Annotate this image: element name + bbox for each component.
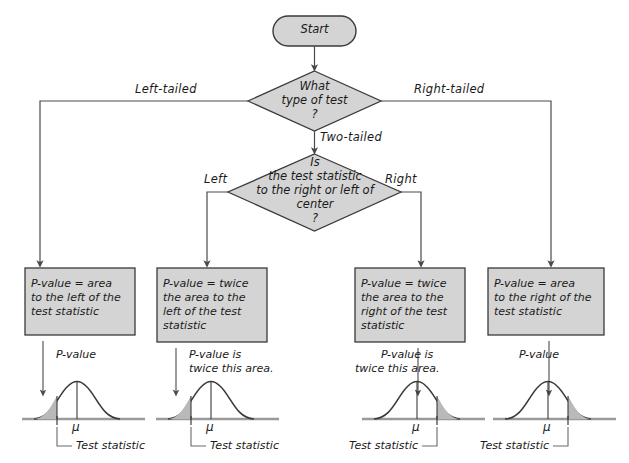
result-box-2-line-2: the area to the bbox=[163, 291, 265, 306]
decision-statistic-side-line-1: Is bbox=[229, 156, 401, 170]
curve-2-annotation-line-1: P-value is bbox=[189, 348, 241, 362]
flowchart-canvas: Start What type of test ? Left-tailed Ri… bbox=[0, 0, 629, 463]
curve-2-annotation-line-2: twice this area. bbox=[189, 362, 274, 376]
result-box-3-line-1: P-value = twice bbox=[361, 277, 463, 292]
connector-two-tailed-right bbox=[401, 192, 421, 264]
edge-label-left-tailed: Left-tailed bbox=[135, 82, 197, 96]
edge-label-two-tailed: Two-tailed bbox=[320, 130, 382, 144]
decision-statistic-side-line-3: to the right or left of bbox=[224, 184, 406, 198]
statistic-leader-2 bbox=[191, 427, 206, 446]
curve-1-center-label: μ bbox=[72, 420, 80, 434]
edge-label-right: Right bbox=[385, 172, 417, 186]
result-box-2-line-4: statistic bbox=[163, 319, 265, 334]
edge-label-left: Left bbox=[204, 172, 227, 186]
result-box-3-line-2: the area to the bbox=[361, 291, 463, 306]
curve-3-statistic-label: Test statistic bbox=[343, 439, 418, 453]
normal-curve-2 bbox=[156, 381, 279, 446]
result-box-4-line-3: test statistic bbox=[494, 305, 600, 320]
statistic-leader-4 bbox=[553, 427, 568, 446]
decision-test-type-line-2: type of test bbox=[253, 94, 376, 108]
normal-curve-4 bbox=[493, 381, 616, 446]
curve-4-center-label: μ bbox=[543, 420, 551, 434]
curve-1-statistic-label: Test statistic bbox=[76, 439, 145, 453]
curve-3-annotation-line-2: twice this area. bbox=[355, 362, 440, 376]
curve-4-statistic-label: Test statistic bbox=[474, 439, 549, 453]
result-box-4-line-2: to the right of the bbox=[494, 291, 602, 306]
curve-2-statistic-label: Test statistic bbox=[210, 439, 279, 453]
decision-statistic-side-line-5: ? bbox=[229, 212, 401, 226]
statistic-leader-3 bbox=[422, 427, 437, 446]
result-box-4-line-1: P-value = area bbox=[494, 277, 600, 292]
result-box-2-line-3: left of the test bbox=[163, 305, 265, 320]
result-box-3-line-3: right of the test bbox=[361, 305, 463, 320]
curve-3-center-label: μ bbox=[412, 420, 420, 434]
start-node-label: Start bbox=[273, 23, 356, 37]
curve-4-annotation-line-1: P-value bbox=[519, 348, 559, 362]
curve-3-annotation-line-1: P-value is bbox=[381, 348, 433, 362]
connector-two-tailed-left bbox=[207, 192, 228, 264]
edge-label-right-tailed: Right-tailed bbox=[414, 82, 484, 96]
result-box-1-line-3: test statistic bbox=[31, 305, 131, 320]
result-box-1-line-2: to the left of the bbox=[31, 291, 135, 306]
normal-curve-3 bbox=[362, 381, 485, 446]
decision-statistic-side-line-4: center bbox=[229, 198, 401, 212]
normal-curve-1 bbox=[22, 381, 145, 446]
result-box-2-line-1: P-value = twice bbox=[163, 277, 265, 292]
decision-statistic-side-line-2: the test statistic bbox=[229, 170, 401, 184]
decision-test-type-line-1: What bbox=[253, 80, 376, 94]
decision-test-type-line-3: ? bbox=[253, 108, 376, 122]
result-box-3-line-4: statistic bbox=[361, 319, 463, 334]
curve-2-center-label: μ bbox=[206, 420, 214, 434]
result-box-1-line-1: P-value = area bbox=[31, 277, 131, 292]
statistic-leader-1 bbox=[57, 427, 72, 446]
curve-1-annotation-line-1: P-value bbox=[56, 348, 96, 362]
flowchart-graphics bbox=[0, 0, 629, 463]
